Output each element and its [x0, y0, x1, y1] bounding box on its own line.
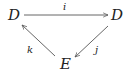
label-k: k [27, 45, 33, 55]
node-top-right: D [111, 8, 123, 23]
node-bottom: E [60, 57, 71, 72]
label-j: j [95, 45, 98, 55]
arrow-j [75, 26, 108, 57]
label-i: i [63, 2, 66, 12]
node-top-left: D [8, 8, 20, 23]
